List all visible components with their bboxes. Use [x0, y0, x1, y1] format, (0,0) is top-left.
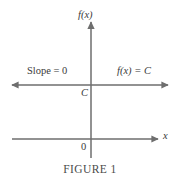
- origin-label: 0: [81, 142, 86, 153]
- slope-annotation-label: Slope = 0: [27, 66, 67, 77]
- x-axis-label: x: [163, 131, 168, 142]
- figure-caption: FIGURE 1: [0, 163, 180, 175]
- figure-container: f(x) Slope = 0 f(x) = C C 0 x FIGURE 1: [0, 0, 180, 181]
- function-annotation-label: f(x) = C: [117, 66, 151, 77]
- y-axis-label: f(x): [78, 10, 93, 21]
- constant-function-graph: [0, 0, 180, 181]
- y-intercept-label: C: [81, 88, 88, 99]
